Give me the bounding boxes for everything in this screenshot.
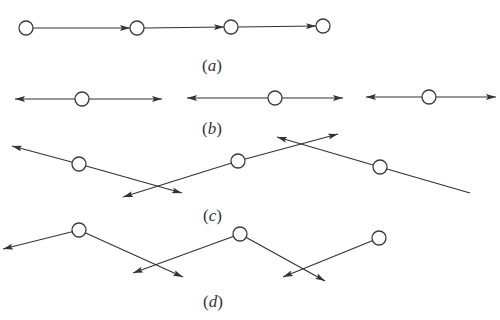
arrow-edge <box>238 26 316 27</box>
arrow-edge <box>144 27 224 28</box>
panel-d-label: (d) <box>203 292 223 311</box>
panel-d-nodes <box>72 223 386 245</box>
panel-c-label: (c) <box>203 206 222 225</box>
arrow-edge <box>79 230 183 277</box>
node-circle <box>422 90 436 104</box>
line-edge <box>380 167 470 193</box>
node-circle <box>373 160 387 174</box>
arrow-edge <box>133 234 240 273</box>
node-circle <box>268 91 282 105</box>
panel-b: (b) <box>15 90 496 138</box>
arrow-edge <box>12 146 79 164</box>
panel-a: (a) <box>19 19 330 75</box>
arrow-edge <box>3 230 79 249</box>
panel-d-edges <box>3 230 379 281</box>
node-circle <box>316 19 330 33</box>
figure-canvas: (a) (b) (c) (d) <box>0 0 500 320</box>
panel-a-edges <box>33 26 316 28</box>
panel-b-label: (b) <box>202 119 222 138</box>
node-circle <box>130 21 144 35</box>
panel-a-label: (a) <box>202 56 222 75</box>
node-circle <box>72 223 86 237</box>
node-circle <box>231 154 245 168</box>
node-circle <box>75 92 89 106</box>
node-circle <box>233 227 247 241</box>
arrow-edge <box>277 137 380 167</box>
arrow-edge <box>79 164 182 193</box>
arrow-edge <box>240 234 325 281</box>
arrow-edge <box>238 134 338 161</box>
panel-d: (d) <box>3 223 386 311</box>
arrow-edge <box>283 238 379 277</box>
panel-c: (c) <box>12 134 470 225</box>
node-circle <box>72 157 86 171</box>
arrow-edge <box>123 161 238 197</box>
node-circle <box>224 20 238 34</box>
node-circle <box>19 21 33 35</box>
node-circle <box>372 231 386 245</box>
